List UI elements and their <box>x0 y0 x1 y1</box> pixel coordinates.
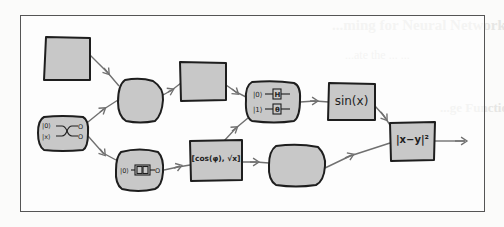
computation-graph: |0⟩ H |1⟩ θ |0⟩ |x⟩ O O |0⟩ O <box>0 0 504 227</box>
node-n8-label: [cos(φ), √x] <box>190 154 242 163</box>
node-n4-circuit <box>246 81 300 122</box>
edge-n2-n3 <box>163 83 181 95</box>
svg-text:|0⟩: |0⟩ <box>253 91 263 99</box>
svg-text:O: O <box>78 133 83 141</box>
svg-text:θ: θ <box>275 106 280 114</box>
node-n10-label: |x−y|² <box>390 134 435 145</box>
node-n2-blob <box>118 79 163 123</box>
svg-text:O: O <box>155 167 160 175</box>
svg-text:|1⟩: |1⟩ <box>253 106 263 114</box>
node-n9-blob <box>269 145 325 187</box>
edge-n3-n4 <box>226 85 246 97</box>
edge-n6-n7 <box>88 136 116 160</box>
svg-text:|0⟩: |0⟩ <box>42 122 51 130</box>
svg-text:O: O <box>78 123 83 131</box>
edge-n8-n4 <box>224 118 248 141</box>
node-n3-square <box>180 62 226 101</box>
svg-text:|0⟩: |0⟩ <box>120 167 129 175</box>
scanned-page: ...ming for Neural Networks ...ate the .… <box>0 0 504 227</box>
node-n5-label: sin(x) <box>328 94 375 108</box>
edge-n6-n2 <box>88 100 118 122</box>
svg-text:|x⟩: |x⟩ <box>42 133 51 141</box>
node-n1-square <box>44 37 90 80</box>
edge-n1-n2 <box>90 55 119 86</box>
edge-n9-n10 <box>325 143 390 168</box>
svg-text:H: H <box>275 91 281 99</box>
